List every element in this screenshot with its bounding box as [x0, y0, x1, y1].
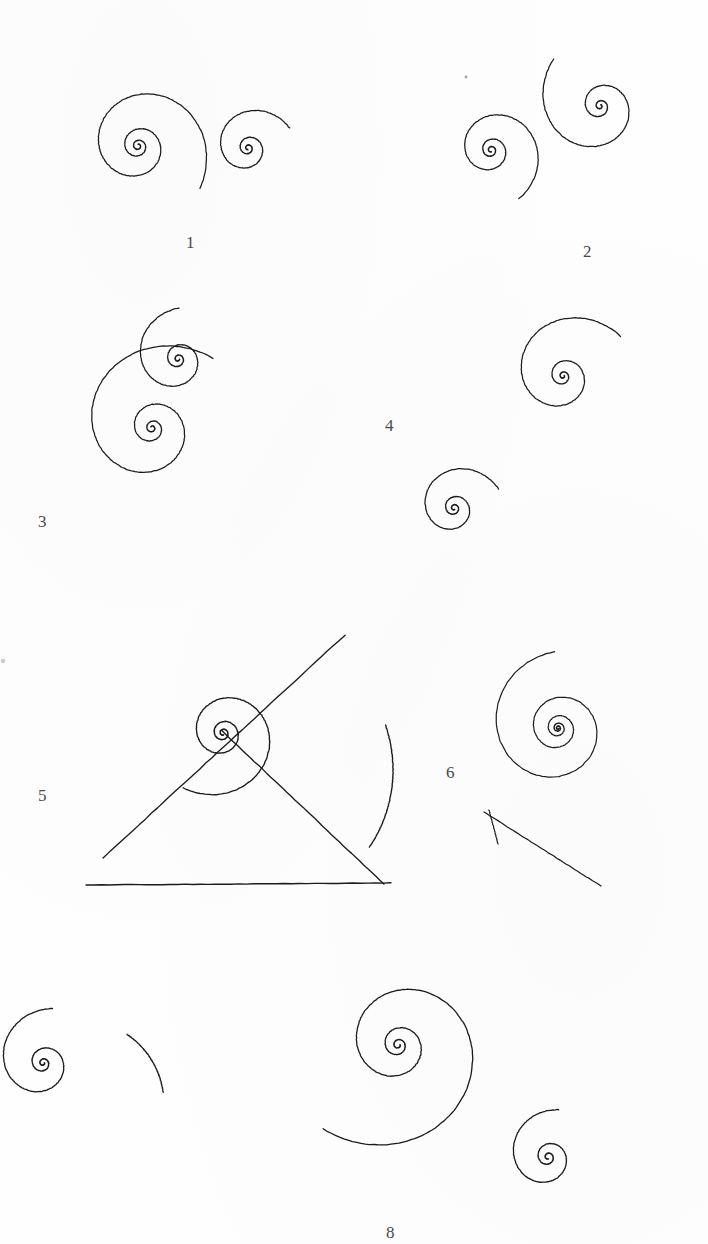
figure-5-main-spiral: [183, 698, 270, 795]
figure-5-tangent-arc: [369, 725, 393, 847]
figure-number-2: 2: [583, 243, 592, 260]
figure-5: [86, 635, 393, 885]
figure-6-tangent-line: [484, 812, 601, 886]
figure-2-left-spiral: [465, 115, 539, 199]
figure-3-lower-large-spiral: [92, 346, 213, 473]
figure-1: [98, 94, 289, 189]
figure-8-small-spiral: [513, 1109, 566, 1182]
figure-number-3: 3: [38, 513, 47, 530]
spiral-plate: 1234568: [0, 0, 708, 1244]
figure-3: [92, 308, 213, 472]
figure-5-radial-axis: [103, 635, 345, 858]
figure-7: [3, 1008, 163, 1092]
figure-7-cropped-spiral: [3, 1008, 64, 1091]
figure-6-tangent-tail: [489, 810, 498, 844]
figure-5-tangent-line: [222, 731, 384, 884]
figure-number-6: 6: [446, 764, 455, 781]
figure-number-5: 5: [38, 787, 47, 804]
figure-2: [465, 59, 629, 198]
figure-4-upper-right-spiral: [521, 318, 620, 406]
figure-7-cross-arc: [127, 1034, 163, 1092]
figure-5-baseline: [86, 883, 391, 885]
figure-6: [484, 652, 601, 886]
figure-4-lower-left-spiral: [425, 469, 499, 530]
figure-3-upper-small-spiral: [140, 308, 198, 386]
figure-8: [323, 989, 566, 1182]
figure-2-right-spiral: [543, 59, 629, 147]
figure-number-1: 1: [186, 234, 195, 251]
figure-1-small-spiral: [220, 110, 289, 168]
faint-dot-figure-2: [465, 76, 468, 79]
figure-4: [425, 318, 621, 530]
faint-dot-left-margin: [1, 659, 5, 663]
figure-1-large-spiral: [98, 94, 206, 189]
figure-6-dense-spiral: [496, 652, 597, 777]
figure-8-large-spiral: [323, 989, 473, 1145]
ink-layer: [0, 0, 708, 1244]
figure-number-8: 8: [386, 1224, 395, 1241]
figure-number-4: 4: [385, 417, 394, 434]
